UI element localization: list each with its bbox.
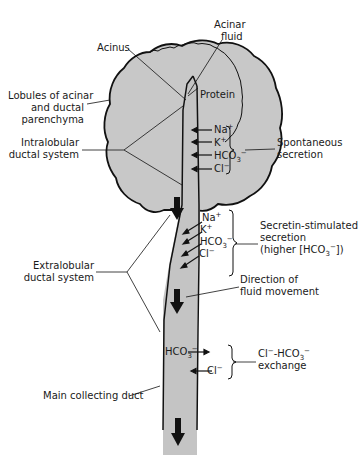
label-intralobular: Intralobular ductal system: [8, 137, 79, 161]
ion-hco3-exchange: HCO3−: [165, 346, 198, 357]
label-lobules: Lobules of acinar and ductal parenchyma: [8, 90, 84, 126]
ion-hco3-secretin: HCO3−: [200, 236, 233, 247]
ion-na-secretin: Na+: [202, 212, 221, 223]
label-acinar-fluid: Acinar fluid: [214, 19, 246, 43]
ion-cl-exchange: Cl−: [207, 365, 223, 376]
label-direction: Direction of fluid movement: [240, 274, 319, 298]
label-main-duct: Main collecting duct: [43, 390, 144, 402]
ion-hco3-spontaneous: HCO3−: [214, 150, 247, 161]
label-secretin-secretion: Secretin-stimulated secretion (higher [H…: [260, 220, 358, 256]
ion-cl-spontaneous: Cl−: [214, 163, 230, 174]
ion-k-spontaneous: K+: [214, 137, 226, 148]
ion-na-spontaneous: Na+: [214, 124, 233, 135]
ion-cl-secretin: Cl−: [199, 248, 215, 259]
label-acinus: Acinus: [97, 42, 130, 54]
label-spontaneous-secretion: Spontaneous secretion: [277, 137, 342, 161]
label-extralobular: Extralobular ductal system: [20, 260, 94, 284]
label-exchange: Cl−-HCO3− exchange: [258, 348, 310, 372]
ion-k-secretin: K+: [200, 224, 212, 235]
label-protein: Protein: [200, 89, 235, 101]
